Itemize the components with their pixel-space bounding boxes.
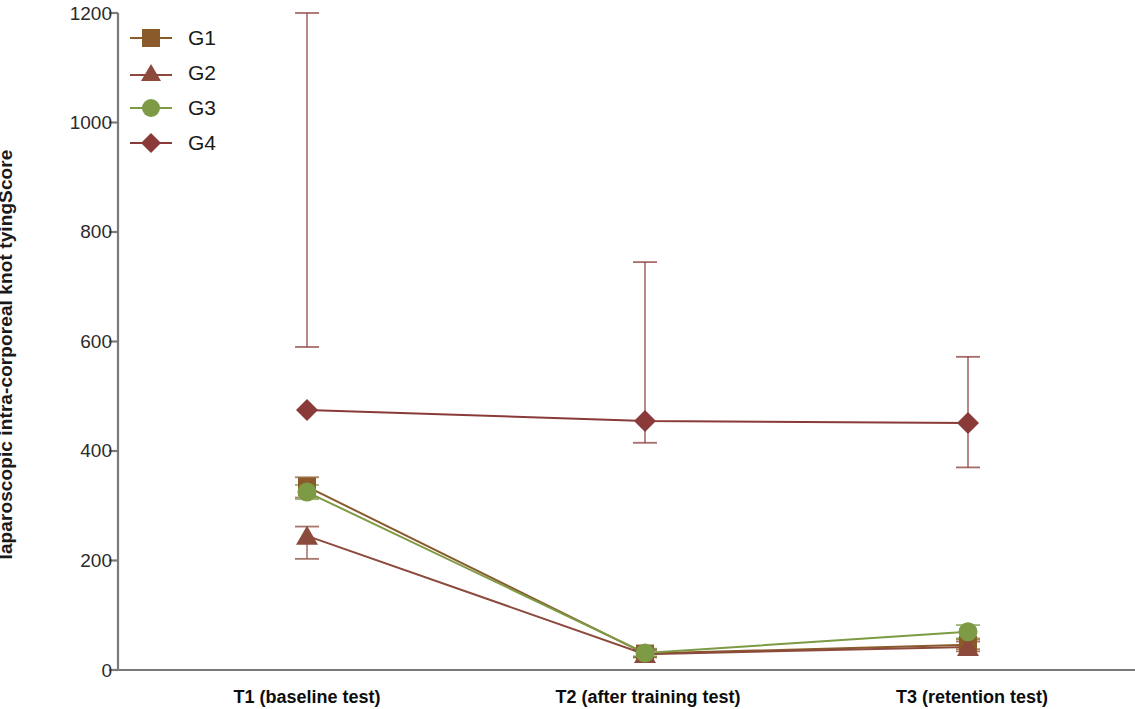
legend-label-g4: G4 [188,132,216,153]
legend-label-g3: G3 [188,97,216,118]
data-point-marker [296,399,318,421]
data-point-marker [957,412,979,434]
data-point-marker [636,644,655,663]
y-tick-label-1200: 1200 [60,4,112,23]
series-line [307,492,968,653]
y-tick-label-200: 200 [60,551,112,570]
chart-figure: Score laparoscopic intra-corporeal knot … [0,0,1135,709]
legend-marker-diamond-icon [128,130,174,156]
y-tick-label-600: 600 [60,332,112,351]
data-point-marker [296,526,318,545]
y-tick-label-0: 0 [60,661,112,680]
x-tick-label-t2: T2 (after training test) [478,688,818,706]
x-tick-label-t1: T1 (baseline test) [157,688,457,706]
legend-marker-triangle-icon [128,60,174,86]
data-point-marker [959,622,978,641]
y-tick-label-1000: 1000 [60,113,112,132]
legend-item-g3[interactable]: G3 [128,90,258,125]
data-point-marker [634,410,656,432]
series-line [307,536,968,654]
y-tick-label-800: 800 [60,222,112,241]
legend-item-g1[interactable]: G1 [128,20,258,55]
x-tick-label-t3: T3 (retention test) [822,688,1122,706]
legend-item-g2[interactable]: G2 [128,55,258,90]
error-bar [295,13,319,347]
data-point-marker [298,483,317,502]
legend-label-g1: G1 [188,27,216,48]
legend-marker-circle-icon [128,95,174,121]
legend-item-g4[interactable]: G4 [128,125,258,160]
y-tick-label-400: 400 [60,441,112,460]
legend: G1 G2 G3 [128,20,258,160]
legend-marker-square-icon [128,25,174,51]
legend-label-g2: G2 [188,62,216,83]
